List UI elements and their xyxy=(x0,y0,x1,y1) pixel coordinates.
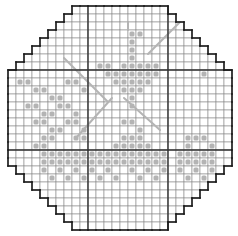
grid-cell[interactable] xyxy=(224,70,232,78)
grid-cell[interactable] xyxy=(104,22,112,30)
grid-cell[interactable] xyxy=(16,142,24,150)
grid-cell[interactable] xyxy=(160,222,168,230)
grid-cell[interactable] xyxy=(104,86,112,94)
grid-cell[interactable] xyxy=(16,126,24,134)
grid-cell[interactable] xyxy=(168,198,176,206)
grid-cell[interactable] xyxy=(152,198,160,206)
grid-cell[interactable] xyxy=(128,222,136,230)
grid-cells[interactable] xyxy=(8,6,232,230)
grid-cell[interactable] xyxy=(168,46,176,54)
grid-cell[interactable] xyxy=(200,118,208,126)
grid-cell[interactable] xyxy=(56,190,64,198)
grid-cell[interactable] xyxy=(168,166,176,174)
grid-cell[interactable] xyxy=(104,54,112,62)
grid-cell[interactable] xyxy=(168,78,176,86)
grid-cell[interactable] xyxy=(136,166,144,174)
grid-cell[interactable] xyxy=(48,118,56,126)
grid-cell[interactable] xyxy=(216,118,224,126)
grid-cell[interactable] xyxy=(64,94,72,102)
grid-cell[interactable] xyxy=(152,86,160,94)
grid-cell[interactable] xyxy=(72,102,80,110)
grid-cell[interactable] xyxy=(48,70,56,78)
grid-cell[interactable] xyxy=(208,174,216,182)
grid-cell[interactable] xyxy=(48,142,56,150)
grid-cell[interactable] xyxy=(120,110,128,118)
grid-cell[interactable] xyxy=(176,62,184,70)
grid-cell[interactable] xyxy=(184,46,192,54)
grid-cell[interactable] xyxy=(192,70,200,78)
grid-cell[interactable] xyxy=(184,78,192,86)
grid-cell[interactable] xyxy=(40,62,48,70)
grid-cell[interactable] xyxy=(112,126,120,134)
grid-cell[interactable] xyxy=(200,166,208,174)
grid-cell[interactable] xyxy=(112,22,120,30)
grid-cell[interactable] xyxy=(192,126,200,134)
grid-cell[interactable] xyxy=(64,22,72,30)
grid-cell[interactable] xyxy=(96,6,104,14)
grid-cell[interactable] xyxy=(80,62,88,70)
grid-cell[interactable] xyxy=(176,86,184,94)
grid-cell[interactable] xyxy=(16,70,24,78)
grid-cell[interactable] xyxy=(192,174,200,182)
grid-cell[interactable] xyxy=(200,78,208,86)
grid-cell[interactable] xyxy=(168,150,176,158)
grid-cell[interactable] xyxy=(120,38,128,46)
grid-cell[interactable] xyxy=(88,54,96,62)
grid-cell[interactable] xyxy=(64,134,72,142)
grid-cell[interactable] xyxy=(48,102,56,110)
grid-cell[interactable] xyxy=(160,182,168,190)
grid-cell[interactable] xyxy=(160,94,168,102)
grid-cell[interactable] xyxy=(56,206,64,214)
grid-cell[interactable] xyxy=(192,86,200,94)
grid-cell[interactable] xyxy=(192,110,200,118)
grid-cell[interactable] xyxy=(144,126,152,134)
grid-cell[interactable] xyxy=(24,174,32,182)
grid-cell[interactable] xyxy=(112,190,120,198)
grid-cell[interactable] xyxy=(160,62,168,70)
grid-cell[interactable] xyxy=(184,94,192,102)
grid-cell[interactable] xyxy=(192,94,200,102)
grid-cell[interactable] xyxy=(184,118,192,126)
grid-cell[interactable] xyxy=(200,142,208,150)
grid-cell[interactable] xyxy=(176,38,184,46)
grid-cell[interactable] xyxy=(56,22,64,30)
grid-cell[interactable] xyxy=(112,102,120,110)
grid-cell[interactable] xyxy=(192,102,200,110)
grid-cell[interactable] xyxy=(168,94,176,102)
grid-cell[interactable] xyxy=(136,54,144,62)
grid-cell[interactable] xyxy=(112,214,120,222)
grid-cell[interactable] xyxy=(56,182,64,190)
grid-cell[interactable] xyxy=(96,126,104,134)
grid-cell[interactable] xyxy=(88,38,96,46)
grid-cell[interactable] xyxy=(144,174,152,182)
grid-cell[interactable] xyxy=(224,126,232,134)
grid-cell[interactable] xyxy=(48,46,56,54)
grid-cell[interactable] xyxy=(160,118,168,126)
grid-cell[interactable] xyxy=(152,94,160,102)
grid-cell[interactable] xyxy=(32,46,40,54)
grid-cell[interactable] xyxy=(56,134,64,142)
grid-cell[interactable] xyxy=(176,110,184,118)
grid-cell[interactable] xyxy=(176,134,184,142)
grid-cell[interactable] xyxy=(72,94,80,102)
grid-cell[interactable] xyxy=(104,6,112,14)
grid-cell[interactable] xyxy=(208,126,216,134)
grid-cell[interactable] xyxy=(184,126,192,134)
grid-cell[interactable] xyxy=(104,118,112,126)
grid-cell[interactable] xyxy=(168,38,176,46)
grid-cell[interactable] xyxy=(120,214,128,222)
grid-cell[interactable] xyxy=(136,14,144,22)
grid-cell[interactable] xyxy=(40,78,48,86)
grid-cell[interactable] xyxy=(48,190,56,198)
grid-cell[interactable] xyxy=(64,206,72,214)
grid-cell[interactable] xyxy=(120,166,128,174)
grid-cell[interactable] xyxy=(128,22,136,30)
grid-cell[interactable] xyxy=(72,126,80,134)
grid-cell[interactable] xyxy=(136,198,144,206)
grid-cell[interactable] xyxy=(16,150,24,158)
grid-cell[interactable] xyxy=(104,134,112,142)
grid-cell[interactable] xyxy=(80,94,88,102)
grid-cell[interactable] xyxy=(64,166,72,174)
grid-cell[interactable] xyxy=(24,54,32,62)
grid-cell[interactable] xyxy=(208,78,216,86)
